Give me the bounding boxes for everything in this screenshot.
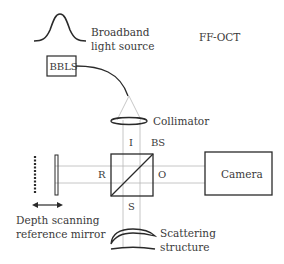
source-label-line2: light source [91, 40, 154, 52]
optical-fiber [76, 66, 128, 96]
bbls-label: BBLS [50, 61, 78, 72]
reference-label-line1: Depth scanning [16, 214, 100, 226]
collimator-label: Collimator [153, 115, 210, 127]
sample-label-line2: structure [160, 241, 210, 253]
bs-label: BS [151, 137, 165, 148]
scan-direction-arrow-icon [32, 202, 63, 208]
arm-reference-label: R [98, 169, 106, 180]
reference-mirror [55, 155, 58, 195]
reference-label-line2: reference mirror [16, 228, 106, 240]
diagram-title: FF-OCT [199, 31, 240, 43]
arm-output-label: O [158, 169, 166, 180]
spectrum-curve-icon [34, 14, 86, 41]
scattering-structure [111, 229, 155, 244]
source-label-line1: Broadband [91, 26, 150, 38]
camera-label: Camera [221, 168, 263, 180]
collimator-lens [111, 118, 147, 125]
ff-oct-diagram: Broadband light source FF-OCT BBLS Colli… [0, 0, 284, 264]
arm-input-label: I [129, 137, 133, 148]
arm-sample-label: S [128, 201, 135, 212]
sample-label-line1: Scattering [160, 227, 216, 239]
